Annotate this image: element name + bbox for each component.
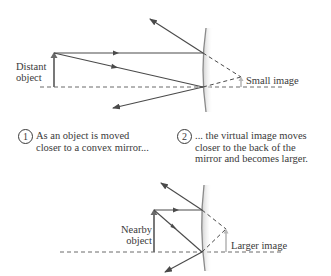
bottom-ray-vertex-reflected xyxy=(165,252,202,272)
top-image-label: Small image xyxy=(246,75,299,86)
bottom-object-label-line1: Nearby xyxy=(121,224,152,235)
top-diagram xyxy=(40,19,282,112)
bottom-object-label-line2: object xyxy=(121,235,152,246)
top-object-label-line2: object xyxy=(16,72,46,83)
caption-1-number-badge: 1 xyxy=(18,129,33,144)
bottom-ray-parallel-arrow-icon xyxy=(173,208,179,213)
top-object-label-line1: Distant xyxy=(16,61,46,72)
top-ray-vertex xyxy=(54,53,203,87)
bottom-ray-vertex xyxy=(154,210,202,252)
caption-1-text: As an object is moved closer to a convex… xyxy=(36,130,149,153)
bottom-ray-vertex-arrow-icon xyxy=(171,224,178,230)
top-ray-parallel-reflected xyxy=(150,19,203,53)
caption-2: 2 ... the virtual image moves closer to … xyxy=(177,130,331,170)
top-ray-parallel-arrow-icon xyxy=(113,51,119,56)
top-ray-vertex-reflected xyxy=(113,87,203,108)
bottom-ray-parallel-reflected xyxy=(161,183,202,210)
top-ray-vertex-arrow-icon xyxy=(111,64,118,69)
bottom-object-label: Nearby object xyxy=(121,224,152,246)
top-object-label: Distant object xyxy=(16,61,46,83)
caption-1: 1 As an object is moved closer to a conv… xyxy=(18,130,168,160)
bottom-image-label: Larger image xyxy=(231,240,287,251)
caption-2-number-badge: 2 xyxy=(177,129,192,144)
caption-2-text: ... the virtual image moves closer to th… xyxy=(195,130,308,165)
bottom-diagram xyxy=(60,183,283,272)
